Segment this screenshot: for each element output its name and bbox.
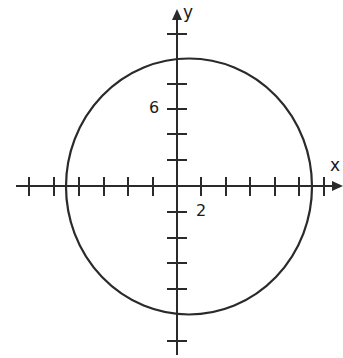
y-axis-label: y <box>183 4 193 21</box>
coordinate-plane <box>0 0 343 358</box>
x-axis-label: x <box>330 157 340 174</box>
y-axis-arrow-icon <box>172 9 182 20</box>
x-tick-label-2: 2 <box>196 203 206 219</box>
x-axis-arrow-icon <box>332 181 343 191</box>
y-tick-label-6: 6 <box>149 100 159 116</box>
